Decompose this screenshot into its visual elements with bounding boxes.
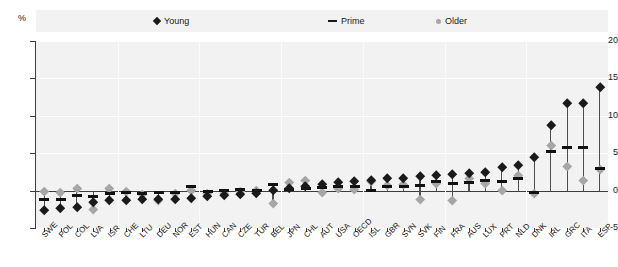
data-point-older[interactable] <box>546 140 555 149</box>
data-point-young[interactable] <box>546 120 555 129</box>
data-point-prime[interactable] <box>415 184 425 187</box>
data-point-prime[interactable] <box>480 179 490 182</box>
data-point-prime[interactable] <box>448 182 458 185</box>
data-point-young[interactable] <box>72 202 81 211</box>
data-point-young[interactable] <box>383 174 392 183</box>
y-tick-label: 10 <box>592 110 618 120</box>
data-point-prime[interactable] <box>56 198 66 201</box>
data-point-prime[interactable] <box>595 167 605 170</box>
data-point-young[interactable] <box>170 194 179 203</box>
data-point-young[interactable] <box>89 197 98 206</box>
data-point-prime[interactable] <box>578 146 588 149</box>
y-tick <box>30 78 35 79</box>
y-tick-label: 5 <box>592 147 618 157</box>
data-point-young[interactable] <box>497 163 506 172</box>
data-point-older[interactable] <box>497 185 506 194</box>
data-point-prime[interactable] <box>186 185 196 188</box>
data-point-prime[interactable] <box>121 191 131 194</box>
data-point-prime[interactable] <box>366 189 376 192</box>
legend-label: Young <box>164 16 189 26</box>
data-point-young[interactable] <box>40 205 49 214</box>
data-point-prime[interactable] <box>350 185 360 188</box>
data-point-young[interactable] <box>121 195 130 204</box>
gridline-horizontal <box>36 153 608 154</box>
y-tick <box>30 41 35 42</box>
chart-legend: YoungPrimeOlder <box>36 10 608 32</box>
data-point-prime[interactable] <box>513 177 523 180</box>
y-tick-label: 0 <box>592 185 618 195</box>
range-stem <box>599 87 600 190</box>
gridline-vertical <box>199 41 200 228</box>
y-tick <box>30 116 35 117</box>
data-point-young[interactable] <box>514 160 523 169</box>
data-point-young[interactable] <box>187 193 196 202</box>
gridline-vertical <box>526 41 527 228</box>
y-tick <box>30 191 35 192</box>
data-point-prime[interactable] <box>431 180 441 183</box>
data-point-young[interactable] <box>432 171 441 180</box>
data-point-young[interactable] <box>399 173 408 182</box>
dash-icon <box>328 20 337 23</box>
data-point-prime[interactable] <box>562 146 572 149</box>
data-point-prime[interactable] <box>399 185 409 188</box>
legend-label: Older <box>445 16 467 26</box>
data-point-prime[interactable] <box>105 192 115 195</box>
y-axis-unit-label: % <box>18 13 26 23</box>
data-point-older[interactable] <box>448 196 457 205</box>
gridline-vertical <box>445 41 446 228</box>
y-tick-label: 15 <box>592 72 618 82</box>
data-point-older[interactable] <box>268 199 277 208</box>
data-point-older[interactable] <box>56 187 65 196</box>
y-tick <box>30 228 35 229</box>
gridline-vertical <box>363 41 364 228</box>
data-point-older[interactable] <box>40 187 49 196</box>
gridline-horizontal <box>36 41 608 42</box>
data-point-prime[interactable] <box>382 185 392 188</box>
data-point-young[interactable] <box>579 98 588 107</box>
data-point-prime[interactable] <box>72 194 82 197</box>
data-point-young[interactable] <box>350 176 359 185</box>
data-point-prime[interactable] <box>464 181 474 184</box>
data-point-prime[interactable] <box>39 198 49 201</box>
legend-item-young[interactable]: Young <box>154 16 189 26</box>
gridline-vertical <box>118 41 119 228</box>
data-point-young[interactable] <box>415 171 424 180</box>
data-point-young[interactable] <box>448 169 457 178</box>
data-point-young[interactable] <box>481 167 490 176</box>
data-point-young[interactable] <box>56 204 65 213</box>
gridline-vertical <box>281 41 282 228</box>
data-point-young[interactable] <box>268 186 277 195</box>
gridline-horizontal <box>36 78 608 79</box>
data-point-older[interactable] <box>579 176 588 185</box>
circle-icon <box>436 19 441 24</box>
data-point-prime[interactable] <box>154 191 164 194</box>
data-point-prime[interactable] <box>546 150 556 153</box>
diamond-icon <box>153 17 161 25</box>
data-point-prime[interactable] <box>529 191 539 194</box>
data-point-prime[interactable] <box>497 180 507 183</box>
data-point-older[interactable] <box>563 161 572 170</box>
legend-item-older[interactable]: Older <box>436 16 467 26</box>
range-stem <box>550 125 551 191</box>
y-tick-label: 20 <box>592 35 618 45</box>
legend-label: Prime <box>341 16 365 26</box>
y-tick <box>30 153 35 154</box>
plot-area <box>36 41 608 228</box>
data-point-young[interactable] <box>138 195 147 204</box>
data-point-young[interactable] <box>595 82 604 91</box>
data-point-young[interactable] <box>563 98 572 107</box>
gridline-horizontal <box>36 116 608 117</box>
unemployment-change-chart: % YoungPrimeOlder -505101520 SWEPOLCOLLV… <box>0 0 618 267</box>
data-point-older[interactable] <box>415 195 424 204</box>
data-point-young[interactable] <box>105 195 114 204</box>
legend-item-prime[interactable]: Prime <box>328 16 365 26</box>
